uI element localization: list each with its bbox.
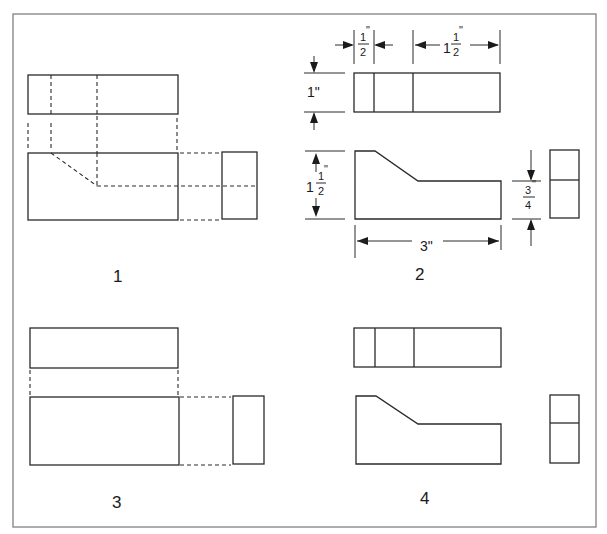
- orthographic-drawing: 1 1 " 2: [0, 0, 607, 534]
- option-1[interactable]: 1: [28, 75, 257, 286]
- svg-text:": ": [324, 163, 328, 175]
- option-3[interactable]: 3: [30, 328, 264, 512]
- svg-text:1": 1": [307, 84, 320, 100]
- option-3-top-view: [30, 328, 178, 368]
- option-3-label: 3: [112, 493, 121, 512]
- svg-text:3: 3: [525, 184, 531, 196]
- dim-top-depth: 1": [304, 56, 345, 130]
- option-1-top-view: [28, 75, 178, 114]
- option-4-top-view: [354, 328, 501, 367]
- option-2-label: 2: [415, 265, 424, 284]
- option-1-label: 1: [113, 267, 122, 286]
- dim-front-height: 1 1 " 2: [305, 151, 345, 219]
- svg-text:": ": [532, 178, 536, 190]
- option-3-side-view: [233, 396, 264, 464]
- option-3-front-view: [30, 397, 179, 465]
- dim-top-left-width: 1 " 2: [335, 24, 393, 64]
- svg-text:2: 2: [453, 46, 459, 58]
- option-3-projection-lines: [30, 370, 231, 465]
- svg-text:1: 1: [306, 179, 314, 195]
- option-4-side-view: [550, 395, 579, 463]
- svg-text:": ": [459, 24, 463, 36]
- svg-text:4: 4: [525, 199, 531, 211]
- option-4-front-view: [356, 396, 501, 464]
- option-4-label: 4: [420, 489, 429, 508]
- option-2-side-view: [550, 150, 579, 218]
- dim-top-right-width: 1 1 " 2: [413, 24, 500, 64]
- drawing-frame: [13, 14, 596, 527]
- option-2-top-view: [354, 73, 500, 112]
- option-4[interactable]: 4: [354, 328, 579, 508]
- dim-front-length: 3": [355, 225, 501, 258]
- svg-text:1: 1: [443, 40, 451, 56]
- svg-text:2: 2: [360, 46, 366, 58]
- dim-step-height: 3 " 4: [512, 150, 541, 246]
- svg-text:2: 2: [318, 185, 324, 197]
- svg-text:3": 3": [420, 238, 433, 254]
- option-1-projection-lines: [28, 116, 220, 220]
- option-2[interactable]: 1 " 2 1 1 " 2 1": [304, 24, 579, 284]
- option-2-front-view: [355, 151, 501, 219]
- svg-text:": ": [366, 24, 370, 36]
